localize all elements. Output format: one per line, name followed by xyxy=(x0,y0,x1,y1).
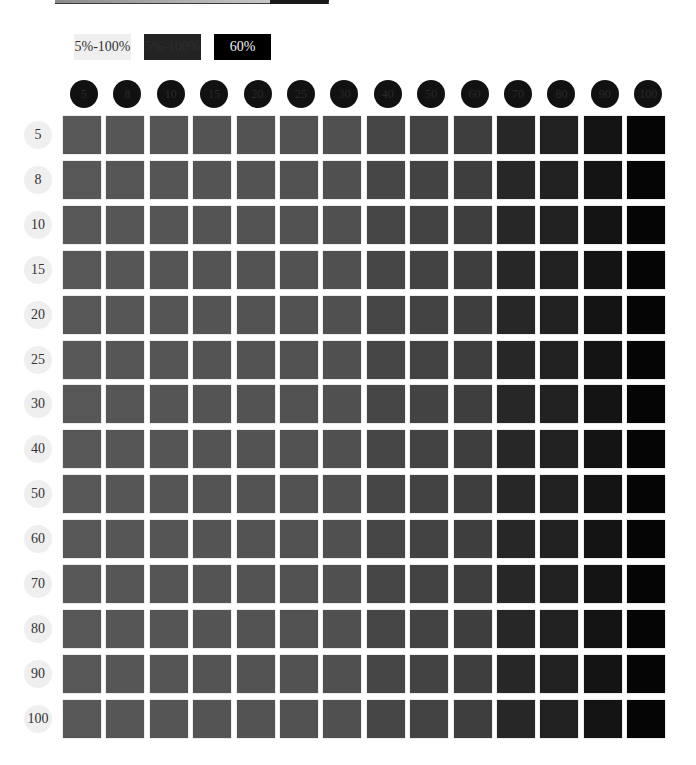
swatch-cell xyxy=(280,116,318,154)
swatch-cell xyxy=(497,565,535,603)
swatch-cell xyxy=(106,565,144,603)
swatch-cell xyxy=(106,430,144,468)
swatch-cell xyxy=(323,161,361,199)
swatch-cell xyxy=(540,296,578,334)
swatch-cell xyxy=(410,655,448,693)
swatch-cell xyxy=(497,385,535,423)
swatch-cell xyxy=(627,296,665,334)
swatch-cell xyxy=(584,610,622,648)
swatch-cell xyxy=(497,610,535,648)
swatch-cell xyxy=(150,565,188,603)
swatch-cell xyxy=(150,251,188,289)
swatch-cell xyxy=(627,700,665,738)
swatch-cell xyxy=(584,385,622,423)
swatch-cell xyxy=(150,116,188,154)
swatch-cell xyxy=(150,700,188,738)
swatch-cell xyxy=(280,251,318,289)
column-headers: 581015202530405060708090100 xyxy=(0,80,696,108)
swatch-cell xyxy=(280,296,318,334)
swatch-cell xyxy=(584,116,622,154)
swatch-cell xyxy=(63,565,101,603)
swatch-cell xyxy=(454,251,492,289)
swatch-cell xyxy=(106,475,144,513)
row-label-circle: 8 xyxy=(24,166,52,194)
swatch-cell xyxy=(63,610,101,648)
column-header-circle: 50 xyxy=(417,80,445,108)
swatch-cell xyxy=(540,116,578,154)
swatch-cell xyxy=(63,161,101,199)
swatch-cell xyxy=(280,385,318,423)
column-header-circle: 20 xyxy=(244,80,272,108)
swatch-cell xyxy=(627,385,665,423)
swatch-cell xyxy=(237,251,275,289)
swatch-cell xyxy=(410,206,448,244)
swatch-cell xyxy=(237,700,275,738)
swatch-cell xyxy=(150,341,188,379)
swatch-cell xyxy=(323,296,361,334)
swatch-cell xyxy=(106,206,144,244)
swatch-cell xyxy=(237,430,275,468)
swatch-cell xyxy=(193,475,231,513)
swatch-cell xyxy=(280,520,318,558)
swatch-cell xyxy=(627,341,665,379)
swatch-cell xyxy=(63,655,101,693)
swatch-cell xyxy=(237,341,275,379)
swatch-cell xyxy=(280,700,318,738)
swatch-cell xyxy=(584,475,622,513)
top-bar-dark-segment xyxy=(270,0,329,4)
swatch-cell xyxy=(280,206,318,244)
column-header-circle: 30 xyxy=(330,80,358,108)
swatch-cell xyxy=(584,520,622,558)
swatch-cell xyxy=(237,385,275,423)
swatch-cell xyxy=(540,251,578,289)
legend-item-light: 5%-100% xyxy=(74,34,131,60)
swatch-cell xyxy=(497,161,535,199)
swatch-cell xyxy=(193,116,231,154)
row-label-circle: 90 xyxy=(24,660,52,688)
swatch-cell xyxy=(454,206,492,244)
swatch-cell xyxy=(150,520,188,558)
swatch-cell xyxy=(584,430,622,468)
swatch-cell xyxy=(193,430,231,468)
swatch-cell xyxy=(323,116,361,154)
swatch-cell xyxy=(237,610,275,648)
swatch-cell xyxy=(367,655,405,693)
swatch-cell xyxy=(584,655,622,693)
swatch-cell xyxy=(540,341,578,379)
row-label-circle: 80 xyxy=(24,615,52,643)
swatch-cell xyxy=(237,161,275,199)
swatch-cell xyxy=(410,700,448,738)
swatch-cell xyxy=(323,520,361,558)
swatch-cell xyxy=(367,206,405,244)
column-header-circle: 60 xyxy=(461,80,489,108)
swatch-cell xyxy=(106,520,144,558)
row-label-circle: 10 xyxy=(24,211,52,239)
swatch-cell xyxy=(367,430,405,468)
swatch-cell xyxy=(454,296,492,334)
swatch-cell xyxy=(367,610,405,648)
swatch-cell xyxy=(497,520,535,558)
swatch-cell xyxy=(540,206,578,244)
swatch-cell xyxy=(627,206,665,244)
row-label-circle: 100 xyxy=(24,705,52,733)
swatch-cell xyxy=(237,520,275,558)
swatch-cell xyxy=(454,161,492,199)
swatch-cell xyxy=(367,161,405,199)
swatch-cell xyxy=(497,206,535,244)
swatch-cell xyxy=(454,385,492,423)
swatch-cell xyxy=(584,296,622,334)
swatch-cell xyxy=(540,520,578,558)
swatch-cell xyxy=(497,700,535,738)
swatch-cell xyxy=(280,610,318,648)
swatch-cell xyxy=(540,655,578,693)
column-header-circle: 90 xyxy=(591,80,619,108)
row-label-circle: 5 xyxy=(24,121,52,149)
swatch-cell xyxy=(150,430,188,468)
swatch-cell xyxy=(367,475,405,513)
swatch-cell xyxy=(584,161,622,199)
legend-item-black: 60% xyxy=(214,34,271,60)
swatch-cell xyxy=(150,385,188,423)
swatch-cell xyxy=(497,116,535,154)
swatch-cell xyxy=(410,161,448,199)
legend-item-dark: 5%-100% xyxy=(144,34,201,60)
